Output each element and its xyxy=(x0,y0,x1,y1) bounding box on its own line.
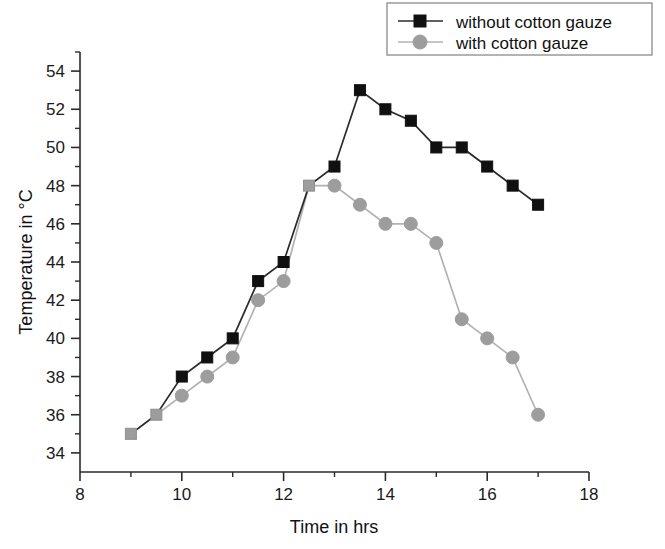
data-point-with-cotton-gauze xyxy=(379,217,392,230)
y-tick-label: 44 xyxy=(46,253,65,272)
y-tick-label: 46 xyxy=(46,215,65,234)
y-tick-label: 48 xyxy=(46,177,65,196)
x-tick-label: 8 xyxy=(75,485,84,504)
legend-marker-square-icon xyxy=(414,15,426,27)
chart-container: 3436384042444648505254 81012141618 Time … xyxy=(0,0,665,549)
data-point-overlapping xyxy=(125,428,136,439)
data-point-with-cotton-gauze xyxy=(481,332,494,345)
y-tick-label: 36 xyxy=(46,406,65,425)
data-point-with-cotton-gauze xyxy=(404,217,417,230)
data-point-without-cotton-gauze xyxy=(482,161,493,172)
x-axis-title: Time in hrs xyxy=(290,517,378,537)
data-point-with-cotton-gauze xyxy=(252,294,265,307)
data-point-with-cotton-gauze xyxy=(353,198,366,211)
data-point-without-cotton-gauze xyxy=(176,371,187,382)
legend-label-with-cotton-gauze: with cotton gauze xyxy=(455,34,588,53)
x-tick-label: 18 xyxy=(580,485,599,504)
series-group xyxy=(125,85,544,440)
y-tick-label: 38 xyxy=(46,368,65,387)
data-point-overlapping xyxy=(304,180,315,191)
data-point-without-cotton-gauze xyxy=(380,104,391,115)
data-point-without-cotton-gauze xyxy=(278,257,289,268)
data-point-with-cotton-gauze xyxy=(226,351,239,364)
data-point-without-cotton-gauze xyxy=(431,142,442,153)
data-point-with-cotton-gauze xyxy=(430,236,443,249)
data-point-without-cotton-gauze xyxy=(227,333,238,344)
data-point-without-cotton-gauze xyxy=(202,352,213,363)
series-line-without-cotton-gauze xyxy=(131,90,538,434)
x-tick-label: 16 xyxy=(478,485,497,504)
x-tick-label: 10 xyxy=(172,485,191,504)
y-tick-label: 50 xyxy=(46,138,65,157)
data-point-without-cotton-gauze xyxy=(507,180,518,191)
y-tick-label: 40 xyxy=(46,329,65,348)
line-chart: 3436384042444648505254 81012141618 Time … xyxy=(0,0,665,549)
data-point-without-cotton-gauze xyxy=(329,161,340,172)
y-axis-ticks: 3436384042444648505254 xyxy=(46,52,80,463)
y-tick-label: 42 xyxy=(46,291,65,310)
legend-marker-circle-icon xyxy=(413,35,427,49)
chart-legend: without cotton gauze with cotton gauze xyxy=(387,3,652,55)
data-point-without-cotton-gauze xyxy=(405,115,416,126)
data-point-with-cotton-gauze xyxy=(277,275,290,288)
data-point-without-cotton-gauze xyxy=(533,199,544,210)
data-point-without-cotton-gauze xyxy=(354,85,365,96)
data-point-without-cotton-gauze xyxy=(456,142,467,153)
x-axis-ticks: 81012141618 xyxy=(75,472,598,504)
data-point-with-cotton-gauze xyxy=(201,370,214,383)
data-point-with-cotton-gauze xyxy=(532,408,545,421)
data-point-without-cotton-gauze xyxy=(253,276,264,287)
x-tick-label: 12 xyxy=(274,485,293,504)
data-point-with-cotton-gauze xyxy=(506,351,519,364)
y-tick-label: 34 xyxy=(46,444,65,463)
y-tick-label: 52 xyxy=(46,100,65,119)
data-point-with-cotton-gauze xyxy=(175,389,188,402)
data-point-with-cotton-gauze xyxy=(328,179,341,192)
series-line-with-cotton-gauze xyxy=(131,186,538,434)
x-tick-label: 14 xyxy=(376,485,395,504)
legend-label-without-cotton-gauze: without cotton gauze xyxy=(455,13,612,32)
data-point-with-cotton-gauze xyxy=(455,313,468,326)
y-axis-title: Temperature in °C xyxy=(16,189,36,334)
data-point-overlapping xyxy=(151,409,162,420)
y-tick-label: 54 xyxy=(46,62,65,81)
